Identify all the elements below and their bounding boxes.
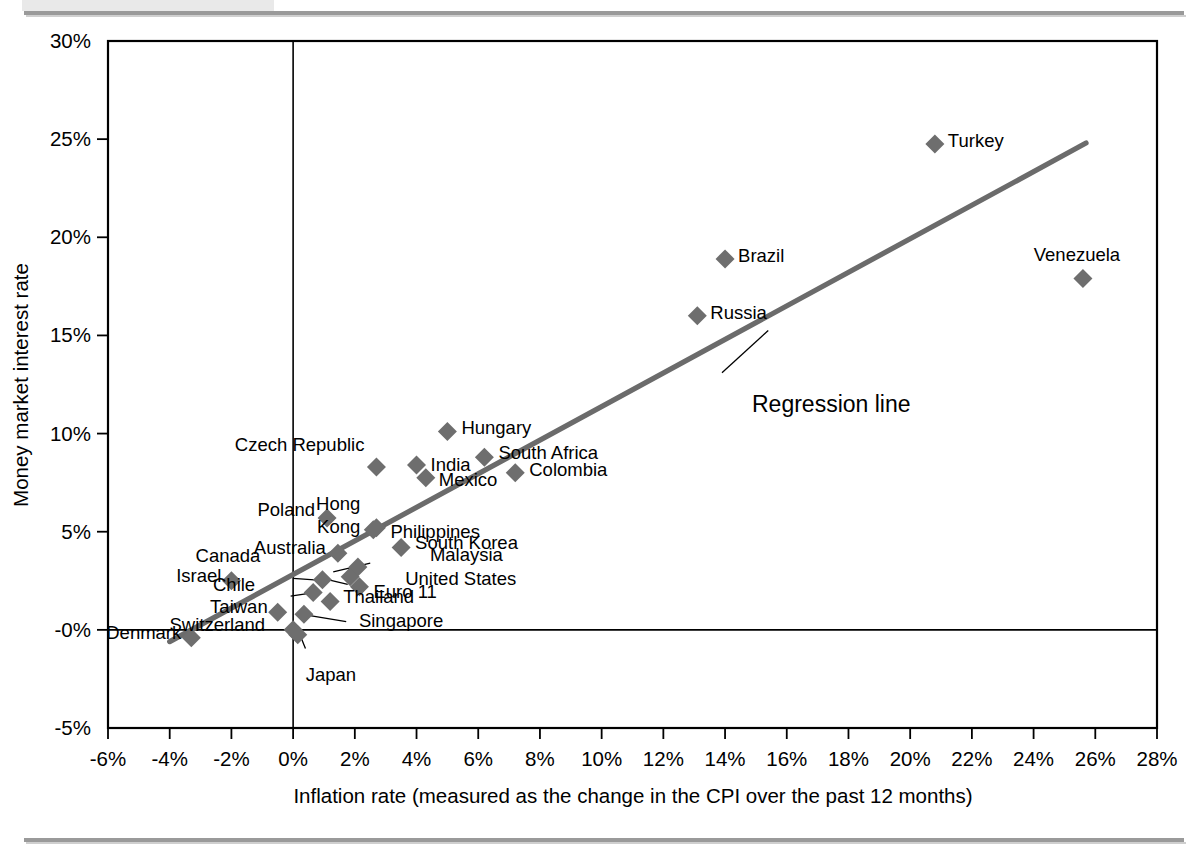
y-tick-label: 10% — [50, 422, 91, 445]
x-tick-label: 10% — [581, 747, 622, 770]
x-tick-label: 26% — [1075, 747, 1116, 770]
marker-taiwan — [268, 603, 287, 622]
x-tick-label: -2% — [213, 747, 249, 770]
x-tick-label: -6% — [90, 747, 126, 770]
x-axis-ticks — [108, 728, 1157, 739]
x-tick-label: 14% — [705, 747, 746, 770]
label-singapore: Singapore — [359, 610, 443, 631]
x-tick-label: 18% — [828, 747, 869, 770]
x-tick-label: 20% — [890, 747, 931, 770]
marker-venezuela — [1073, 269, 1092, 288]
x-tick-label: 0% — [278, 747, 308, 770]
label-chile: Chile — [213, 574, 255, 595]
y-axis-tick-labels: 30%25%20%15%10%5%-0%-5% — [50, 29, 91, 739]
label-australia: Australia — [254, 537, 327, 558]
singapore-leader — [307, 615, 346, 621]
label-south-korea: South Korea — [415, 532, 519, 553]
x-tick-label: 12% — [643, 747, 684, 770]
y-axis-ticks — [97, 139, 108, 630]
label-colombia: Colombia — [529, 459, 608, 480]
label-poland: Poland — [257, 499, 315, 520]
x-tick-label: 4% — [402, 747, 432, 770]
label-hong-kong: Hong — [316, 493, 360, 514]
x-axis-tick-labels: -6%-4%-2%0%2%4%6%8%10%12%14%16%18%20%22%… — [90, 747, 1178, 770]
y-tick-label: 5% — [61, 520, 91, 543]
data-point-labels: DenmarkIsraelTaiwanSwitzerlandJapanSinga… — [106, 130, 1121, 685]
marker-thailand — [321, 592, 340, 611]
marker-czech-republic — [367, 457, 386, 476]
x-tick-label: 28% — [1136, 747, 1177, 770]
figure-page: -6%-4%-2%0%2%4%6%8%10%12%14%16%18%20%22%… — [0, 0, 1201, 849]
regression-line-annotation: Regression line — [752, 391, 911, 417]
marker-turkey — [925, 135, 944, 154]
label-russia: Russia — [710, 302, 767, 323]
label-brazil: Brazil — [738, 245, 784, 266]
y-axis-title: Money market interest rate — [9, 263, 32, 507]
x-tick-label: 16% — [766, 747, 807, 770]
y-tick-label: -0% — [55, 618, 91, 641]
y-tick-label: 30% — [50, 29, 91, 52]
y-tick-label: 15% — [50, 323, 91, 346]
x-tick-label: 6% — [463, 747, 493, 770]
y-tick-label: -5% — [55, 716, 91, 739]
x-axis-title: Inflation rate (measured as the change i… — [293, 784, 972, 807]
marker-singapore — [294, 605, 313, 624]
marker-colombia — [506, 463, 525, 482]
marker-hungary — [438, 422, 457, 441]
label-canada: Canada — [196, 545, 262, 566]
x-tick-label: 2% — [340, 747, 370, 770]
x-tick-label: 24% — [1013, 747, 1054, 770]
regression-line — [170, 143, 1086, 642]
label-turkey: Turkey — [948, 130, 1005, 151]
marker-south-africa — [475, 448, 494, 467]
label-hungary: Hungary — [461, 417, 532, 438]
marker-brazil — [716, 249, 735, 268]
label-mexico: Mexico — [439, 469, 498, 490]
label-hong-kong: Kong — [317, 516, 360, 537]
scatter-chart: -6%-4%-2%0%2%4%6%8%10%12%14%16%18%20%22%… — [0, 0, 1201, 849]
x-tick-label: 22% — [951, 747, 992, 770]
y-tick-label: 20% — [50, 225, 91, 248]
y-tick-label: 25% — [50, 127, 91, 150]
marker-russia — [688, 306, 707, 325]
x-tick-label: 8% — [525, 747, 555, 770]
label-czech-republic: Czech Republic — [235, 434, 365, 455]
label-japan: Japan — [306, 664, 356, 685]
label-venezuela: Venezuela — [1034, 244, 1121, 265]
label-euro-11: Euro 11 — [373, 581, 436, 602]
label-switzerland: Switzerland — [169, 614, 265, 635]
x-tick-label: -4% — [151, 747, 187, 770]
